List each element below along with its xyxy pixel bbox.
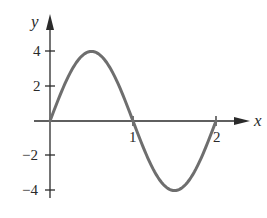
x-axis-arrow-icon bbox=[234, 117, 250, 125]
sine-chart: y x 4 2 −2 −4 1 2 bbox=[0, 0, 267, 218]
y-tick-label-2: 2 bbox=[33, 78, 41, 94]
x-tick-label-2: 2 bbox=[213, 129, 221, 145]
y-axis-arrow-icon bbox=[46, 14, 54, 30]
y-axis-label: y bbox=[29, 12, 39, 31]
x-axis-label: x bbox=[253, 111, 262, 130]
y-tick-label-neg2: −2 bbox=[22, 147, 38, 163]
y-tick-label-neg4: −4 bbox=[22, 182, 38, 198]
y-tick-label-4: 4 bbox=[33, 43, 41, 59]
